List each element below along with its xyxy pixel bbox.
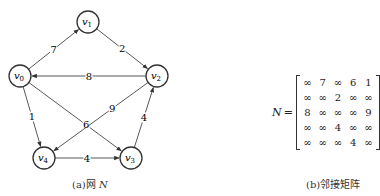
matrix-row: ∞∞2∞∞ xyxy=(300,90,376,105)
edge-weight: 2 xyxy=(119,43,125,54)
adjacency-matrix: N = ∞7∞61∞∞2∞∞8∞∞∞9∞∞4∞∞∞∞∞4∞ xyxy=(272,72,380,152)
matrix-cell: 4 xyxy=(330,120,345,135)
network-diagram: 72816944 v0v1v2v3v4 xyxy=(0,0,200,196)
edge-weight: 9 xyxy=(109,103,115,114)
matrix-cell: ∞ xyxy=(330,105,345,120)
matrix-cell: ∞ xyxy=(346,90,361,105)
edge-weight: 4 xyxy=(84,153,90,164)
network-caption: (a)网 N xyxy=(72,176,108,191)
edge-v0-v3 xyxy=(29,83,122,151)
edge-weight: 1 xyxy=(29,111,35,122)
matrix-cell: 1 xyxy=(361,75,376,90)
edge-v2-v4 xyxy=(54,82,148,150)
matrix-cell: 7 xyxy=(315,75,330,90)
matrix-name: N xyxy=(272,106,282,119)
matrix-cell: ∞ xyxy=(300,135,315,150)
matrix-cell: ∞ xyxy=(361,120,376,135)
matrix-cell: ∞ xyxy=(315,120,330,135)
matrix-cell: ∞ xyxy=(346,105,361,120)
equals-sign: = xyxy=(284,106,293,119)
matrix-cell: ∞ xyxy=(300,90,315,105)
matrix-cell: ∞ xyxy=(300,120,315,135)
matrix-table: ∞7∞61∞∞2∞∞8∞∞∞9∞∞4∞∞∞∞∞4∞ xyxy=(300,75,376,150)
matrix-cell: ∞ xyxy=(315,135,330,150)
matrix-cell: 6 xyxy=(346,75,361,90)
matrix-row: ∞7∞61 xyxy=(300,75,376,90)
matrix-cell: 8 xyxy=(300,105,315,120)
matrix-cell: 9 xyxy=(361,105,376,120)
edge-weight: 8 xyxy=(86,71,92,82)
matrix-row: 8∞∞∞9 xyxy=(300,105,376,120)
matrix-cell: ∞ xyxy=(330,75,345,90)
network-caption-text: (a)网 xyxy=(72,179,96,190)
network-caption-var: N xyxy=(99,179,108,190)
matrix-cell: ∞ xyxy=(361,90,376,105)
matrix-cell: ∞ xyxy=(300,75,315,90)
matrix-cell: 2 xyxy=(330,90,345,105)
matrix-brackets: ∞7∞61∞∞2∞∞8∞∞∞9∞∞4∞∞∞∞∞4∞ xyxy=(296,75,380,150)
edge-weight: 7 xyxy=(50,44,56,55)
edge-weight: 4 xyxy=(141,112,147,123)
matrix-cell: ∞ xyxy=(346,120,361,135)
matrix-row: ∞∞4∞∞ xyxy=(300,120,376,135)
matrix-cell: ∞ xyxy=(315,105,330,120)
matrix-caption: (b)邻接矩阵 xyxy=(306,176,360,191)
matrix-row: ∞∞∞4∞ xyxy=(300,135,376,150)
matrix-cell: ∞ xyxy=(361,135,376,150)
matrix-cell: 4 xyxy=(346,135,361,150)
matrix-cell: ∞ xyxy=(315,90,330,105)
matrix-cell: ∞ xyxy=(330,135,345,150)
